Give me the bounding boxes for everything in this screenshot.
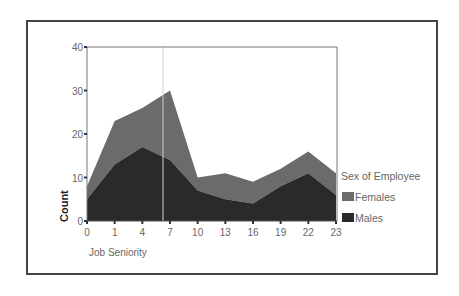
legend-title: Sex of Employee — [341, 170, 421, 182]
y-tick-label: 30 — [72, 86, 84, 97]
x-tick-label: 19 — [275, 227, 287, 238]
x-tick-label: 22 — [303, 227, 315, 238]
x-tick-label: 13 — [220, 227, 232, 238]
y-tick-label: 20 — [72, 129, 84, 140]
legend-label-males: Males — [355, 212, 383, 224]
x-tick-label: 10 — [192, 227, 204, 238]
x-tick-label: 0 — [84, 227, 90, 238]
x-tick-label: 7 — [167, 227, 173, 238]
stacked-area-chart: 0102030400147101316192223 Job Seniority … — [0, 0, 459, 296]
y-tick-label: 0 — [77, 216, 83, 227]
y-axis-title: Count — [58, 190, 70, 222]
x-tick-label: 4 — [140, 227, 146, 238]
plot-areas — [87, 91, 336, 222]
y-tick-label: 10 — [72, 173, 84, 184]
x-tick-label: 16 — [247, 227, 259, 238]
y-tick-label: 40 — [72, 42, 84, 53]
legend-swatch-females — [342, 192, 354, 201]
x-tick-label: 23 — [330, 227, 342, 238]
x-tick-label: 1 — [112, 227, 118, 238]
legend-label-females: Females — [355, 191, 395, 203]
x-axis-title: Job Seniority — [89, 247, 147, 258]
legend-swatch-males — [342, 213, 354, 222]
legend: Sex of Employee Females Males — [341, 170, 421, 224]
